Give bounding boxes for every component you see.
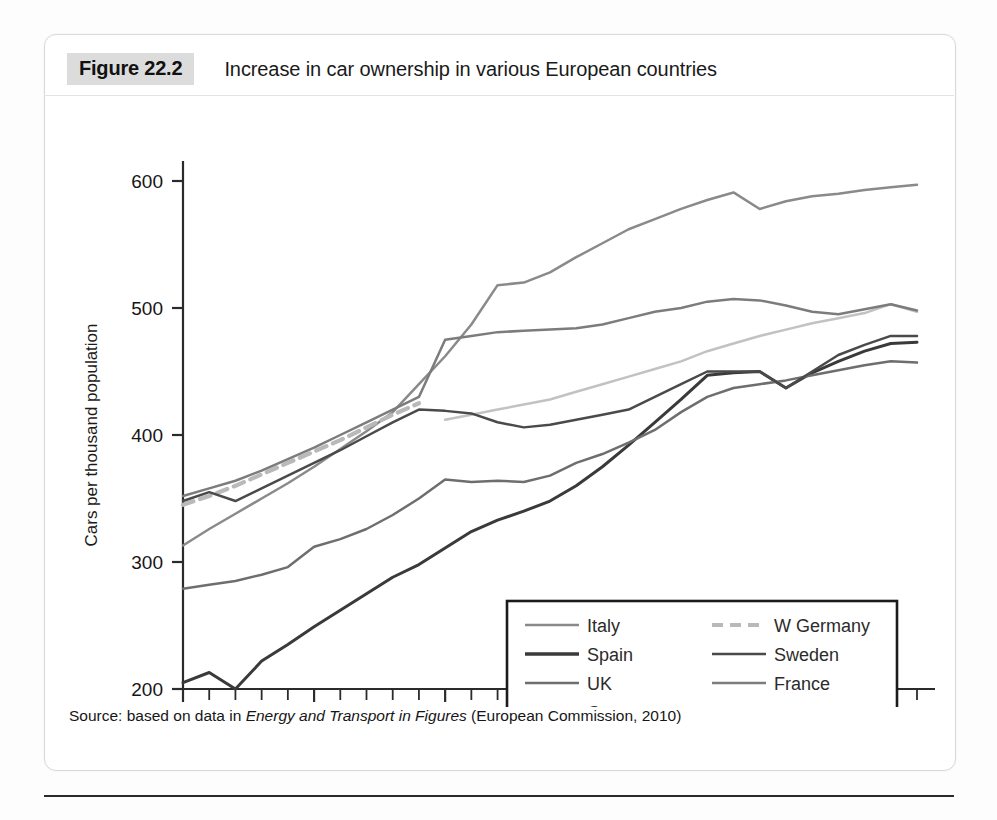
figure-number-badge: Figure 22.2 — [67, 53, 194, 85]
figure-header: Figure 22.2 Increase in car ownership in… — [67, 49, 717, 89]
chart-area: 200300400500600198019851990199520002005C… — [45, 97, 955, 707]
y-tick-label: 300 — [131, 552, 163, 573]
y-tick-label: 600 — [131, 171, 163, 192]
chart-legend[interactable]: ItalySpainUKGermanyW GermanySwedenFrance — [507, 601, 897, 707]
legend-label-uk[interactable]: UK — [587, 674, 612, 694]
line-chart: 200300400500600198019851990199520002005C… — [45, 97, 955, 707]
source-title: Energy and Transport in Figures — [246, 707, 467, 724]
y-tick-label: 500 — [131, 298, 163, 319]
legend-label-spain[interactable]: Spain — [587, 645, 633, 665]
y-tick-label: 200 — [131, 679, 163, 700]
series-line-uk — [183, 361, 917, 588]
source-prefix: Source: based on data in — [69, 707, 246, 724]
legend-label-italy[interactable]: Italy — [587, 616, 620, 636]
series-line-germany — [445, 304, 917, 420]
legend-label-w-germany[interactable]: W Germany — [774, 616, 870, 636]
series-line-italy — [183, 185, 917, 546]
figure-title: Increase in car ownership in various Eur… — [224, 58, 717, 81]
page-root: Figure 22.2 Increase in car ownership in… — [0, 0, 997, 820]
header-divider — [44, 95, 954, 96]
source-caption: Source: based on data in Energy and Tran… — [69, 707, 681, 725]
series-line-france — [183, 299, 917, 496]
legend-label-france[interactable]: France — [774, 674, 830, 694]
source-suffix: (European Commission, 2010) — [467, 707, 682, 724]
legend-label-sweden[interactable]: Sweden — [774, 645, 839, 665]
page-bottom-rule — [44, 795, 954, 797]
y-axis-title: Cars per thousand population — [82, 323, 101, 546]
figure-panel: Figure 22.2 Increase in car ownership in… — [44, 34, 956, 771]
y-tick-label: 400 — [131, 425, 163, 446]
